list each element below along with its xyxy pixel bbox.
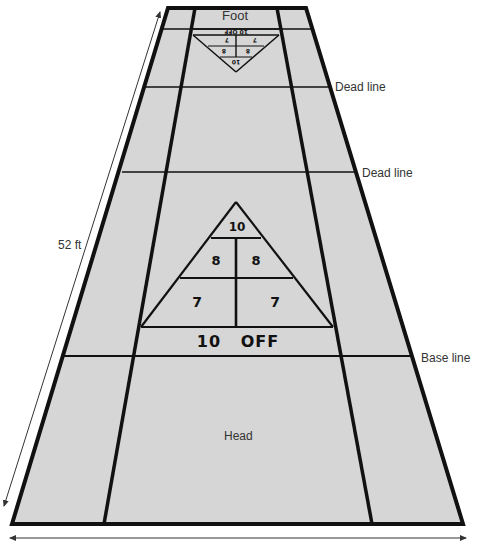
length-label: 52 ft <box>58 238 81 252</box>
foot-score-10-off: 10 OFF <box>224 29 248 36</box>
foot-score-10: 10 <box>232 59 240 66</box>
head-score-10: 10 <box>229 220 246 234</box>
head-score-7-left: 7 <box>192 294 202 310</box>
base-line-label: Base line <box>421 351 470 365</box>
foot-label: Foot <box>222 8 248 23</box>
head-label: Head <box>224 429 253 443</box>
head-score-7-right: 7 <box>270 294 280 310</box>
foot-score-8-left: 8 <box>222 48 226 55</box>
dead-line-1-label: Dead line <box>335 80 386 94</box>
head-score-10-off: 10 OFF <box>197 332 279 351</box>
foot-score-7-right: 7 <box>253 37 257 44</box>
foot-score-8-right: 8 <box>246 48 250 55</box>
dead-line-2-label: Dead line <box>362 166 413 180</box>
foot-score-7-left: 7 <box>225 37 229 44</box>
head-score-8-right: 8 <box>251 253 260 268</box>
head-score-8-left: 8 <box>211 253 220 268</box>
court-diagram <box>0 0 478 547</box>
